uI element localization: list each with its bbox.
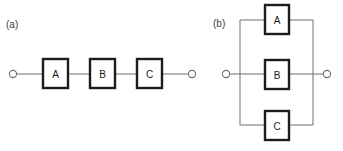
block-a: A — [265, 5, 289, 34]
panel-b-right-terminal-icon — [323, 70, 330, 77]
block-c: C — [137, 59, 162, 88]
block-a-label: A — [274, 15, 281, 26]
block-diagram-figure: (a) A B C (b) — [0, 0, 343, 151]
block-b: B — [90, 59, 115, 88]
block-b-label: B — [274, 70, 281, 81]
block-b-label: B — [99, 69, 106, 80]
block-a: A — [43, 59, 68, 88]
block-a-label: A — [52, 69, 59, 80]
block-c: C — [265, 111, 289, 140]
panel-b-label: (b) — [213, 18, 225, 29]
block-b: B — [265, 60, 289, 89]
block-c-label: C — [273, 121, 280, 132]
panel-b: (b) A B C — [213, 5, 331, 140]
block-c-label: C — [146, 69, 153, 80]
panel-b-left-terminal-icon — [222, 70, 229, 77]
block-diagram-canvas: (a) A B C (b) — [0, 0, 343, 151]
panel-a-label: (a) — [6, 19, 18, 30]
panel-a-right-terminal-icon — [188, 70, 195, 77]
panel-a-left-terminal-icon — [9, 70, 16, 77]
panel-a: (a) A B C — [6, 19, 196, 88]
